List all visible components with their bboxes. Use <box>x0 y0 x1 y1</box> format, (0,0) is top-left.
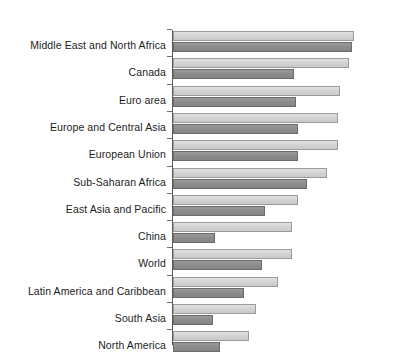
axis-tick <box>167 193 172 194</box>
bar-group: Latin America and Caribbean <box>0 277 400 298</box>
bar-group: North America <box>0 331 400 352</box>
bar-light <box>173 249 292 259</box>
bar-light <box>173 58 349 68</box>
bar-group: Canada <box>0 58 400 79</box>
bar-dark <box>173 260 262 270</box>
axis-tick <box>167 111 172 112</box>
axis-tick <box>167 84 172 85</box>
bar-light <box>173 86 340 96</box>
bar-dark <box>173 151 298 161</box>
axis-tick <box>167 302 172 303</box>
axis-tick <box>167 329 172 330</box>
category-label: Middle East and North Africa <box>0 40 166 51</box>
bar-light <box>173 277 278 287</box>
bar-group: China <box>0 222 400 243</box>
category-label: World <box>0 258 166 269</box>
bar-dark <box>173 206 265 216</box>
bar-group: Middle East and North Africa <box>0 31 400 52</box>
bar-group: World <box>0 249 400 270</box>
category-label: Sub-Saharan Africa <box>0 177 166 188</box>
axis-tick <box>167 220 172 221</box>
axis-tick <box>167 247 172 248</box>
category-label: North America <box>0 340 166 351</box>
bar-group: Europe and Central Asia <box>0 113 400 134</box>
bar-light <box>173 113 338 123</box>
bar-light <box>173 195 298 205</box>
bar-light <box>173 168 327 178</box>
category-label: East Asia and Pacific <box>0 204 166 215</box>
bar-dark <box>173 124 298 134</box>
category-label: European Union <box>0 149 166 160</box>
bar-light <box>173 331 249 341</box>
bar-dark <box>173 342 220 352</box>
axis-tick <box>167 138 172 139</box>
category-label: Europe and Central Asia <box>0 122 166 133</box>
bar-light <box>173 140 338 150</box>
bar-light <box>173 222 292 232</box>
axis-tick <box>167 56 172 57</box>
bar-group: South Asia <box>0 304 400 325</box>
bar-light <box>173 304 256 314</box>
bar-dark <box>173 179 307 189</box>
bar-dark <box>173 233 215 243</box>
category-label: Canada <box>0 67 166 78</box>
category-label: Latin America and Caribbean <box>0 286 166 297</box>
bar-group: Euro area <box>0 86 400 107</box>
bar-group: East Asia and Pacific <box>0 195 400 216</box>
category-label: South Asia <box>0 313 166 324</box>
bar-group: Sub-Saharan Africa <box>0 168 400 189</box>
bar-dark <box>173 97 296 107</box>
category-label: Euro area <box>0 95 166 106</box>
axis-tick <box>167 166 172 167</box>
bar-dark <box>173 315 213 325</box>
bar-dark <box>173 69 294 79</box>
category-label: China <box>0 231 166 242</box>
axis-tick <box>167 275 172 276</box>
bar-light <box>173 31 354 41</box>
bar-dark <box>173 42 352 52</box>
bar-group: European Union <box>0 140 400 161</box>
bar-dark <box>173 288 244 298</box>
axis-tick <box>167 29 172 30</box>
